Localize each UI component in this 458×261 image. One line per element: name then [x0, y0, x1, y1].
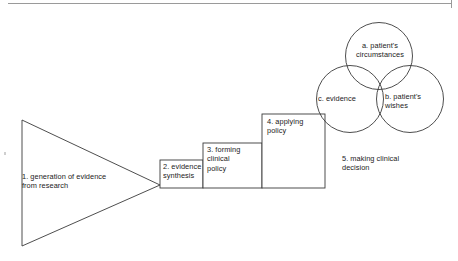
figure-root: 1. generation of evidence from research … — [0, 0, 458, 261]
stage-2-label: 2. evidence synthesis — [163, 162, 205, 181]
venn-circle-c-label: c. evidence — [318, 94, 370, 103]
venn-circle-b-label: b. patient's wishes — [385, 92, 441, 111]
stage-1-label: 1. generation of evidence from research — [22, 172, 140, 191]
stage-4-label: 4. applying policy — [267, 117, 325, 136]
diagram-line-art — [0, 0, 458, 261]
stage-3-label: 3. forming clinical policy — [207, 145, 263, 173]
venn-caption-label: 5. making clinical decision — [342, 154, 428, 173]
venn-circle-a-label: a. patient's circumstances — [350, 41, 410, 60]
